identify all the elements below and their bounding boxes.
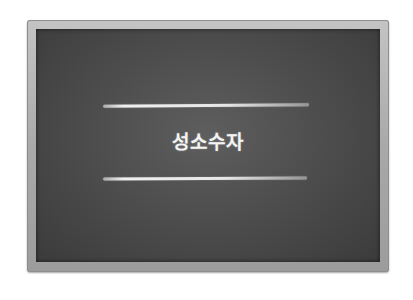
chalkboard: 성소수자 (36, 29, 380, 262)
chalk-line-bottom (103, 176, 307, 180)
chalk-line-top (103, 103, 309, 107)
chalkboard-frame: 성소수자 (27, 20, 389, 272)
chalkboard-title: 성소수자 (36, 127, 380, 154)
